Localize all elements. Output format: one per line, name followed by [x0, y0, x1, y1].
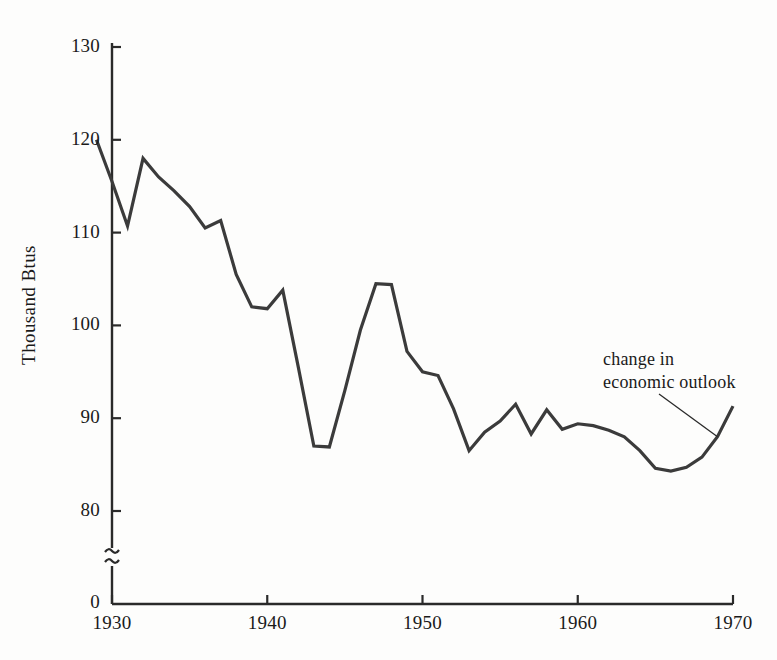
- annotation-label: change in economic outlook: [603, 348, 736, 395]
- y-tick-label: 130: [52, 35, 100, 57]
- y-axis-ticks: [112, 47, 121, 511]
- x-tick-label: 1930: [86, 612, 138, 634]
- data-series-line: [96, 140, 733, 471]
- y-tick-label: 120: [52, 128, 100, 150]
- chart-plot-area: [0, 0, 777, 660]
- y-tick-label: 110: [52, 221, 100, 243]
- y-axis-zero-label: 0: [62, 591, 100, 613]
- chart-figure: Thousand Btus change in economic outlook…: [0, 0, 777, 660]
- y-tick-label: 90: [52, 406, 100, 428]
- x-tick-label: 1940: [241, 612, 293, 634]
- y-axis-title: Thousand Btus: [18, 190, 40, 420]
- y-tick-label: 100: [52, 313, 100, 335]
- x-tick-label: 1950: [397, 612, 449, 634]
- annotation-leader-line: [659, 394, 718, 437]
- x-tick-label: 1960: [552, 612, 604, 634]
- annotation-line-2: economic outlook: [603, 371, 736, 394]
- chart-axes: [105, 43, 733, 604]
- y-tick-label: 80: [52, 499, 100, 521]
- x-tick-label: 1970: [707, 612, 759, 634]
- y-axis-break-icon: [105, 549, 119, 563]
- annotation-line-1: change in: [603, 348, 736, 371]
- x-axis-ticks: [112, 595, 733, 604]
